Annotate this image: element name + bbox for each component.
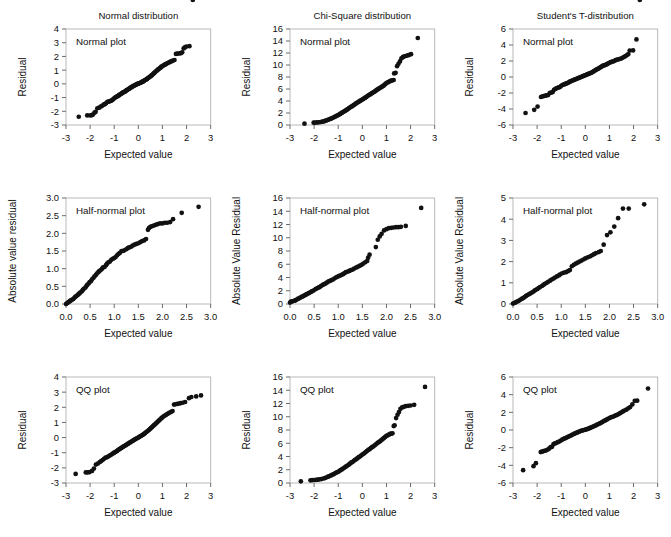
- y-tick-label: 10: [272, 411, 282, 422]
- data-point: [418, 206, 423, 211]
- data-point: [76, 114, 81, 119]
- x-tick-label: 1: [607, 132, 612, 143]
- x-axis-label: Expected value: [104, 328, 173, 339]
- y-tick-label: 2: [501, 55, 506, 66]
- plot-annotation: QQ plot: [76, 384, 110, 395]
- data-points: [302, 36, 420, 126]
- x-tick-label: 1: [383, 490, 388, 501]
- plot-annotation: QQ plot: [300, 384, 334, 395]
- data-point: [621, 206, 626, 211]
- y-tick-label: 14: [272, 385, 282, 396]
- x-tick-label: -3: [509, 490, 517, 501]
- chart-title: Student's T-distribution: [537, 10, 634, 21]
- x-axis-label: Expected value: [104, 507, 173, 518]
- y-tick-label: -3: [51, 477, 59, 488]
- y-tick-label: 4: [54, 371, 59, 382]
- y-tick-label: 1: [54, 417, 59, 428]
- x-tick-label: 0.5: [307, 311, 320, 322]
- y-axis-label: Residual: [17, 58, 28, 97]
- x-axis-label: Expected value: [551, 328, 620, 339]
- data-point: [627, 206, 632, 211]
- y-tick-label: 6: [501, 23, 506, 34]
- y-tick-label: 5: [501, 192, 506, 203]
- y-axis-label: Residual: [17, 411, 28, 450]
- plot-annotation: Normal plot: [76, 36, 126, 47]
- y-tick-label: 0: [501, 298, 506, 309]
- data-point: [190, 0, 195, 2]
- x-tick-label: 0.5: [531, 311, 544, 322]
- y-tick-label: 2: [277, 107, 282, 118]
- x-tick-label: 1.0: [108, 311, 121, 322]
- x-tick-label: 1: [383, 132, 388, 143]
- data-point: [536, 104, 541, 109]
- figure-grid: Normal distribution-3-2-10123-3-2-101234…: [0, 0, 671, 537]
- data-point: [524, 111, 529, 116]
- x-tick-label: 0.0: [283, 311, 296, 322]
- data-points: [298, 385, 427, 484]
- data-point: [638, 0, 643, 2]
- x-tick-label: 1: [607, 490, 612, 501]
- x-tick-label: 1.5: [579, 311, 592, 322]
- x-tick-label: -1: [110, 490, 118, 501]
- y-tick-label: -1: [51, 92, 59, 103]
- y-tick-label: 0: [277, 119, 282, 130]
- data-points: [511, 202, 647, 306]
- y-axis-label: Absolute value residual: [7, 199, 18, 302]
- chart-svg: -3-2-10123-3-2-101234Expected valueResid…: [0, 358, 224, 537]
- y-tick-label: 3: [501, 235, 506, 246]
- x-axis-label: Expected value: [328, 507, 397, 518]
- data-point: [403, 224, 408, 229]
- y-tick-label: 14: [272, 35, 282, 46]
- y-tick-label: 6: [277, 83, 282, 94]
- x-tick-label: -3: [285, 490, 293, 501]
- x-tick-label: 2: [184, 490, 189, 501]
- y-tick-label: 2.0: [46, 228, 59, 239]
- data-point: [634, 37, 639, 42]
- plot-annotation: QQ plot: [523, 384, 557, 395]
- x-tick-label: 0.0: [507, 311, 520, 322]
- x-tick-label: 0: [359, 132, 364, 143]
- x-tick-label: 3: [655, 490, 660, 501]
- data-point: [635, 398, 640, 403]
- x-tick-label: -1: [110, 132, 118, 143]
- y-tick-label: -1: [51, 447, 59, 458]
- data-point: [189, 395, 194, 400]
- chart-panel: Student's T-distribution-3-2-10123-6-4-2…: [447, 0, 671, 179]
- data-point: [373, 245, 378, 250]
- chart-svg: 0.00.51.01.52.02.53.0012345Expected valu…: [447, 179, 671, 358]
- y-tick-label: 4: [54, 23, 59, 34]
- data-point: [170, 409, 175, 414]
- x-tick-label: -1: [334, 132, 342, 143]
- y-tick-label: 3: [54, 37, 59, 48]
- data-point: [534, 461, 539, 466]
- data-point: [422, 385, 427, 390]
- y-tick-label: -2: [51, 106, 59, 117]
- x-tick-label: 2: [631, 490, 636, 501]
- x-tick-label: -2: [86, 490, 94, 501]
- plot-annotation: Half-normal plot: [300, 205, 369, 216]
- y-tick-label: 4: [501, 39, 506, 50]
- y-axis-label: Absolute Value Residual: [454, 197, 465, 305]
- data-point: [194, 394, 199, 399]
- x-tick-label: 2.5: [627, 311, 640, 322]
- y-tick-label: 8: [277, 245, 282, 256]
- x-tick-label: 3.0: [428, 311, 441, 322]
- y-tick-label: 6: [277, 259, 282, 270]
- data-point: [392, 423, 397, 428]
- chart-panel: Normal distribution-3-2-10123-3-2-101234…: [0, 0, 224, 179]
- x-tick-label: 1.0: [555, 311, 568, 322]
- y-axis-label: Residual: [464, 411, 475, 450]
- chart-panel: -3-2-10123-6-4-20246Expected valueResidu…: [447, 358, 671, 537]
- y-tick-label: 6: [277, 438, 282, 449]
- y-tick-label: 16: [272, 192, 282, 203]
- y-tick-label: 8: [277, 71, 282, 82]
- x-tick-label: -3: [62, 132, 70, 143]
- y-tick-label: 2.5: [46, 210, 59, 221]
- x-tick-label: 1: [160, 490, 165, 501]
- x-tick-label: 2.5: [180, 311, 193, 322]
- data-point: [179, 210, 184, 215]
- chart-svg: -3-2-10123-6-4-20246Expected valueResidu…: [447, 358, 671, 537]
- y-tick-label: 3: [54, 387, 59, 398]
- x-tick-label: -1: [557, 490, 565, 501]
- chart-title: Normal distribution: [98, 10, 178, 21]
